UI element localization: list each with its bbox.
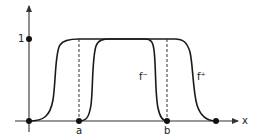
f-plus-curve — [29, 39, 216, 121]
b-dot — [164, 118, 170, 124]
origin-dot — [26, 118, 32, 124]
y-tick-label-1: 1 — [18, 33, 24, 44]
f-minus-curve — [79, 39, 167, 121]
a-dot — [76, 118, 82, 124]
x-axis-label: x — [242, 115, 248, 126]
f-plus-end-dot — [213, 118, 219, 124]
diagram-canvas: 1 x a b f⁻ f⁺ — [0, 0, 258, 140]
y-one-dot — [26, 36, 32, 42]
f-minus-label: f⁻ — [139, 71, 148, 82]
b-label: b — [164, 125, 170, 136]
a-label: a — [76, 125, 82, 136]
f-plus-label: f⁺ — [197, 71, 206, 82]
